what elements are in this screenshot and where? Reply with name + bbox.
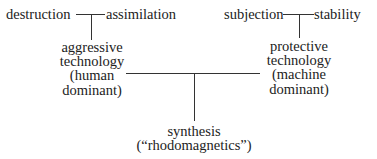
term-stability: stability bbox=[314, 7, 361, 21]
connector-middle-horizontal bbox=[126, 73, 260, 74]
node-line: protective bbox=[262, 39, 336, 53]
connector-middle-vertical bbox=[194, 73, 195, 121]
term-subjection: subjection bbox=[224, 7, 284, 21]
term-destruction: destruction bbox=[6, 7, 70, 21]
node-line: dominant) bbox=[262, 82, 336, 96]
node-line: (“rhodomagnetics”) bbox=[134, 138, 254, 152]
node-synthesis: synthesis (“rhodomagnetics”) bbox=[134, 124, 254, 152]
node-aggressive-technology: aggressive technology (human dominant) bbox=[56, 40, 128, 97]
term-assimilation: assimilation bbox=[106, 7, 176, 21]
node-line: aggressive bbox=[56, 40, 128, 54]
node-line: technology bbox=[56, 54, 128, 68]
node-protective-technology: protective technology (machine dominant) bbox=[262, 39, 336, 96]
connector-top-left-vertical bbox=[91, 14, 92, 40]
node-line: synthesis bbox=[134, 124, 254, 138]
node-line: technology bbox=[262, 53, 336, 67]
node-line: (machine bbox=[262, 67, 336, 81]
connector-top-right-vertical bbox=[299, 14, 300, 38]
node-line: dominant) bbox=[56, 83, 128, 97]
node-line: (human bbox=[56, 68, 128, 82]
